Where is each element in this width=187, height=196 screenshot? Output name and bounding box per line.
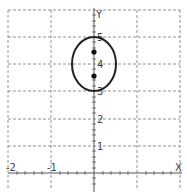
focus-point-upper [91,49,96,54]
focus-point-lower [91,73,96,78]
y-tick-label-2: 2 [97,114,103,125]
graph-plot: Y X -2 -1 1 2 3 4 5 [0,0,187,196]
y-tick-label-4: 4 [97,59,103,70]
y-axis-label: Y [95,9,103,20]
x-tick-label-neg2: -2 [6,162,16,173]
y-tick-label-1: 1 [97,141,103,152]
x-tick-label-neg1: -1 [47,162,57,173]
axes [8,8,182,192]
x-axis-label: X [175,162,182,173]
